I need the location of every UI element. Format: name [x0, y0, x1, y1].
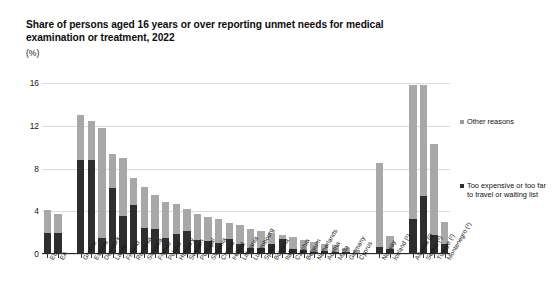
- bar-segment-too-expensive: [44, 233, 51, 254]
- unit-label: (%): [26, 47, 426, 59]
- y-tick-label: 4: [34, 207, 39, 215]
- legend-item-too-expensive[interactable]: Too expensive or too far to travel or wa…: [460, 182, 552, 199]
- legend-label-other-reasons: Other reasons: [467, 118, 514, 127]
- bar-segment-other-reasons: [109, 154, 116, 188]
- y-axis: 0481216: [22, 76, 39, 261]
- bar-column[interactable]: [409, 85, 416, 254]
- y-tick-label: 8: [34, 165, 39, 173]
- bar-segment-other-reasons: [194, 214, 201, 240]
- bar-segment-other-reasons: [409, 85, 416, 219]
- bar-column[interactable]: [420, 85, 427, 254]
- bar-segment-other-reasons: [54, 214, 61, 232]
- bar-segment-other-reasons: [44, 210, 51, 232]
- legend-swatch-icon-too-expensive: [460, 184, 464, 188]
- page-title: Share of persons aged 16 years or over r…: [26, 18, 426, 45]
- bar-segment-other-reasons: [130, 178, 137, 205]
- bar-column[interactable]: [98, 128, 105, 254]
- bar-segment-other-reasons: [88, 121, 95, 159]
- bar-segment-other-reasons: [98, 128, 105, 238]
- bar-segment-other-reasons: [226, 223, 233, 239]
- y-tick-label: 16: [30, 79, 39, 87]
- y-tick-label: 12: [30, 122, 39, 130]
- legend-item-other-reasons[interactable]: Other reasons: [460, 118, 514, 127]
- bar-column[interactable]: [88, 121, 95, 254]
- bar-segment-other-reasons: [162, 202, 169, 238]
- bar-column[interactable]: [54, 214, 61, 254]
- bar-column[interactable]: [44, 210, 51, 254]
- bar-segment-other-reasons: [183, 209, 190, 230]
- bar-segment-other-reasons: [141, 187, 148, 229]
- bar-segment-other-reasons: [77, 115, 84, 160]
- x-axis-labels: EUEAGreeceEstoniaDenmarkLatviaFinlandRom…: [42, 258, 462, 291]
- y-tick-label: 0: [34, 250, 39, 258]
- bar-segment-other-reasons: [430, 144, 437, 235]
- legend-label-too-expensive: Too expensive or too far to travel or wa…: [467, 182, 552, 199]
- bar-segment-other-reasons: [420, 85, 427, 196]
- title-block: Share of persons aged 16 years or over r…: [26, 18, 426, 59]
- bar-segment-other-reasons: [151, 195, 158, 229]
- bar-segment-other-reasons: [119, 158, 126, 216]
- bar-column[interactable]: [376, 163, 383, 254]
- bar-segment-other-reasons: [376, 163, 383, 246]
- bar-segment-other-reasons: [173, 204, 180, 234]
- x-axis-label: EU: [49, 250, 59, 261]
- bars-layer: [42, 83, 450, 254]
- bar-column[interactable]: [77, 115, 84, 254]
- bar-segment-too-expensive: [77, 160, 84, 254]
- legend-swatch-icon-other-reasons: [460, 120, 464, 124]
